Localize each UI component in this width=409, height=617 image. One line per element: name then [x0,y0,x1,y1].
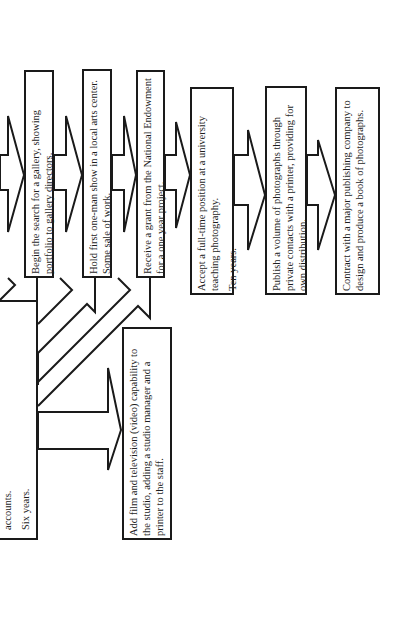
step-4-description: Accept a full-time position at a univers… [195,95,221,291]
branch-box-add-film-tv: Add film and television (video) capabili… [122,327,172,540]
arrow-into-step-1 [0,116,24,232]
step-6-text: Contract with a major publishing company… [337,89,382,297]
left-box-line-1: accounts. [1,308,14,536]
step-3-national-grant: Receive a grant from the National Endowm… [136,70,165,278]
left-box-duration: Six years. [19,308,32,536]
step-2-text: Hold first one-man show in a local arts … [84,71,114,280]
step-4-duration: Ten years. [226,95,239,291]
step-6-publishing-contract: Contract with a major publishing company… [335,87,380,295]
step-5-publish-volume: Publish a volume of photographs through … [265,86,307,295]
step-4-text: Accept a full-time position at a univers… [192,89,236,297]
step-1-text: Begin the search for a gallery, showing … [26,72,56,280]
step-5-text: Publish a volume of photographs through … [267,88,309,297]
arrow-step-1-to-2 [54,116,82,232]
branch-box-text: Add film and television (video) capabili… [124,329,174,542]
step-3-text: Receive a grant from the National Endowm… [138,72,167,280]
step-1-gallery-search: Begin the search for a gallery, showing … [24,70,54,278]
left-box: accounts. Six years. [0,300,38,540]
arrow-step-3-to-4 [165,122,190,228]
career-flowchart: accounts. Six years. Add film and televi… [0,0,409,617]
diagonal-arrow-from-step-2 [38,278,95,385]
left-box-text: accounts. Six years. [0,302,40,542]
step-2-first-show: Hold first one-man show in a local arts … [82,69,112,278]
arrow-left-to-branch [38,368,121,470]
step-4-university-position: Accept a full-time position at a univers… [190,87,234,295]
arrow-step-2-to-3 [112,116,136,232]
arrow-step-5-to-6 [307,140,335,250]
